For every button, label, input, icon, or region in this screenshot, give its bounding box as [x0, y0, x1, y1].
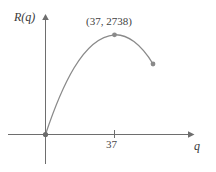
- origin-marker: [43, 132, 48, 137]
- revenue-curve: [46, 35, 154, 135]
- revenue-function-graph: R(q) q 37 (37, 2738): [0, 0, 216, 172]
- vertex-coordinate-label: (37, 2738): [86, 16, 132, 27]
- x-axis-arrowhead: [188, 131, 195, 138]
- x-axis-label: q: [194, 140, 200, 152]
- y-axis-label: R(q): [14, 11, 35, 23]
- y-axis-arrowhead: [42, 14, 49, 20]
- x-tick-label-37: 37: [106, 139, 117, 150]
- endpoint-marker: [151, 62, 156, 67]
- vertex-marker: [112, 32, 117, 37]
